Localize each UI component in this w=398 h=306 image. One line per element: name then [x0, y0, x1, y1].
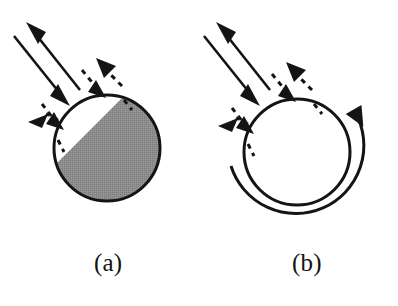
- sphere-shaded-half: [20, 60, 230, 230]
- incident-solid-arrow: [14, 36, 70, 106]
- panel-label-a: (a): [94, 249, 122, 277]
- reflected-solid-arrow: [26, 22, 80, 90]
- figure-canvas: [0, 0, 398, 306]
- figure-root: (a) (b): [0, 0, 398, 306]
- open-circle-outline: [244, 99, 350, 205]
- panel-a: [14, 22, 230, 230]
- panel-label-b: (b): [292, 249, 322, 277]
- half-shaded-sphere: [20, 60, 230, 230]
- panel-b: [204, 22, 364, 214]
- reflected-solid-arrow: [216, 22, 270, 90]
- incident-solid-arrow: [204, 36, 260, 106]
